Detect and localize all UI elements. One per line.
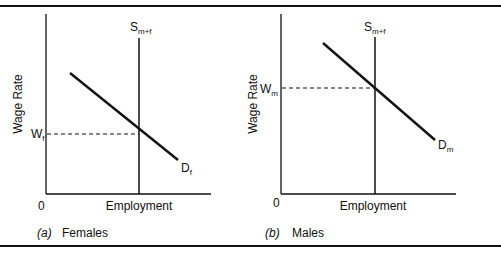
y-axis-label: Wage Rate xyxy=(11,74,25,134)
x-axis-label: Employment xyxy=(340,199,407,213)
panel-title: Males xyxy=(292,226,324,240)
panel-letter: (b) xyxy=(265,226,280,240)
demand-label: Dm xyxy=(438,138,454,154)
panel-letter: (a) xyxy=(37,226,52,240)
demand-label: Df xyxy=(181,161,193,177)
origin-label: 0 xyxy=(273,196,280,210)
supply-label: Sm+f xyxy=(130,20,152,36)
demand-line xyxy=(323,43,435,140)
y-axis-label: Wage Rate xyxy=(246,74,260,134)
supply-label: Sm+f xyxy=(364,20,386,36)
panel-title: Females xyxy=(62,226,108,240)
wage-label: Wm xyxy=(260,82,278,98)
demand-line xyxy=(70,73,178,160)
panel-males: Sm+f Dm Wm Wage Rate Employment 0 (b) Ma… xyxy=(246,14,456,240)
origin-label: 0 xyxy=(38,199,45,213)
x-axis-label: Employment xyxy=(106,199,173,213)
panel-females: Sm+f Df Wf Wage Rate Employment 0 (a) Fe… xyxy=(11,14,211,240)
wage-label: Wf xyxy=(31,127,45,143)
figure: Sm+f Df Wf Wage Rate Employment 0 (a) Fe… xyxy=(0,0,501,254)
